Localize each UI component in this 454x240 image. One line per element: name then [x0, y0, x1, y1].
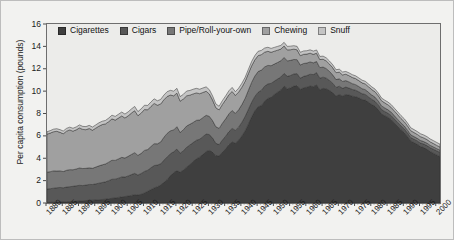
legend-item-pipe-roll-your-own[interactable]: Pipe/Roll-your-own [167, 26, 251, 35]
legend-label: Cigarettes [70, 26, 109, 35]
chart-figure: Per capita consumption (pounds) 02468101… [0, 0, 454, 240]
legend-swatch-icon [120, 27, 128, 35]
y-tick-label: 4 [19, 154, 41, 163]
y-axis-tick-labels: 0246810121416 [15, 1, 41, 240]
legend-label: Pipe/Roll-your-own [179, 26, 251, 35]
y-tick-label: 14 [19, 42, 41, 51]
y-tick-label: 2 [19, 176, 41, 185]
legend-swatch-icon [58, 27, 66, 35]
y-tick-label: 10 [19, 87, 41, 96]
y-tick-label: 12 [19, 64, 41, 73]
legend-swatch-icon [318, 27, 326, 35]
legend-swatch-icon [167, 27, 175, 35]
chart-legend: CigarettesCigarsPipe/Roll-your-ownChewin… [58, 26, 350, 35]
x-axis-tick-labels: 1880188518901895190019051910191519201925… [46, 207, 446, 240]
y-tick-label: 16 [19, 20, 41, 29]
stacked-area-series [47, 24, 440, 203]
legend-label: Snuff [330, 26, 350, 35]
legend-item-snuff[interactable]: Snuff [318, 26, 350, 35]
plot-area [46, 23, 441, 204]
y-tick-label: 0 [19, 199, 41, 208]
y-tick-label: 8 [19, 109, 41, 118]
legend-item-cigars[interactable]: Cigars [120, 26, 157, 35]
legend-swatch-icon [262, 27, 270, 35]
y-tick-label: 6 [19, 131, 41, 140]
legend-label: Cigars [132, 26, 157, 35]
legend-item-chewing[interactable]: Chewing [262, 26, 307, 35]
legend-label: Chewing [274, 26, 307, 35]
legend-item-cigarettes[interactable]: Cigarettes [58, 26, 109, 35]
